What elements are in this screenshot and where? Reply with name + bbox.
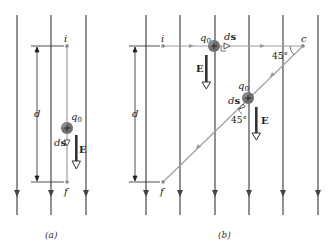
label-q0-b2: q0 [238,80,249,93]
label-e-a: E [79,144,87,155]
e-field-arrow-b2 [252,107,261,140]
label-i-a: i [64,33,67,44]
label-i-b: i [161,33,164,44]
label-q0-a: q0 [71,111,82,124]
label-ds-a: ds [54,137,66,148]
panel-a: d i f q0 ds E (a) [14,15,89,240]
ds-arrow-b1 [224,43,230,49]
label-d-b: d [132,108,138,119]
label-f-a: f [63,186,70,197]
label-ds-b1: ds [224,31,236,42]
angle-arc-c [290,46,294,55]
point-f-b [161,180,165,184]
path-arrow-2 [260,44,265,48]
path-arrow-1 [189,44,194,48]
caption-a: (a) [45,230,58,240]
label-d-a: d [34,108,40,119]
charge-q0-b1 [208,40,220,52]
caption-b: (b) [218,230,231,240]
path-c-to-f [163,46,303,182]
field-arrowheads-b [143,190,321,197]
point-c-b [301,44,305,48]
label-f-b: f [159,186,166,197]
label-e-b2: E [261,115,269,126]
charge-q0-a [61,122,73,134]
panel-b: d i c f q0 ds E 45° q0 [129,15,321,240]
label-angle-bottom: 45° [231,115,247,125]
label-ds-b2: ds [228,95,240,106]
point-i-a [65,44,69,48]
point-i-b [161,44,165,48]
charge-q0-b2 [242,92,254,104]
label-angle-top: 45° [272,51,288,61]
electric-potential-diagram: d i f q0 ds E (a) [0,0,332,251]
label-e-b1: E [196,63,204,74]
diagram-canvas: d i f q0 ds E (a) [0,0,332,251]
label-c-b: c [301,33,307,44]
point-f-a [65,180,69,184]
